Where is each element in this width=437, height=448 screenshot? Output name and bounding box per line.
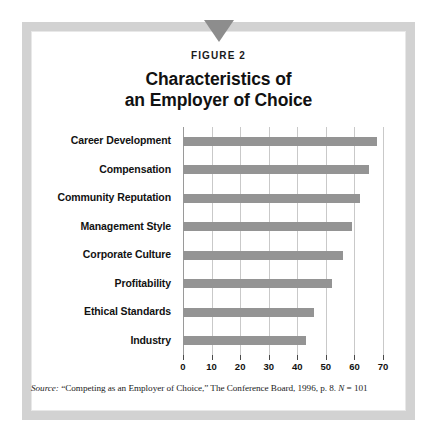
tick-mark-70 bbox=[383, 355, 384, 360]
sample-size-value: = 101 bbox=[344, 383, 367, 393]
bar bbox=[183, 194, 360, 203]
figure-title-line-2: an Employer of Choice bbox=[31, 90, 406, 111]
category-label: Ethical Standards bbox=[84, 305, 171, 317]
tick-mark-60 bbox=[354, 355, 355, 360]
source-body: “Competing as an Employer of Choice,” Th… bbox=[59, 383, 338, 393]
gridline-50 bbox=[326, 127, 327, 355]
figure-title-line-1: Characteristics of bbox=[31, 69, 406, 90]
source-note: Source: “Competing as an Employer of Cho… bbox=[31, 383, 406, 393]
plot-wrapper: Career DevelopmentCompensationCommunity … bbox=[31, 127, 406, 375]
plot-area: 010203040506070 bbox=[183, 127, 383, 355]
x-tick-label: 50 bbox=[321, 361, 332, 372]
x-tick-label: 60 bbox=[349, 361, 360, 372]
down-triangle-icon bbox=[204, 20, 234, 42]
category-label: Management Style bbox=[80, 220, 171, 232]
gridline-20 bbox=[240, 127, 241, 355]
gridline-10 bbox=[212, 127, 213, 355]
x-tick-label: 40 bbox=[292, 361, 303, 372]
x-tick-label: 0 bbox=[180, 361, 185, 372]
category-label: Compensation bbox=[99, 163, 171, 175]
source-prefix: Source: bbox=[31, 383, 59, 393]
gridline-30 bbox=[269, 127, 270, 355]
category-label: Industry bbox=[130, 334, 171, 346]
category-label: Community Reputation bbox=[58, 191, 172, 203]
bar bbox=[183, 279, 332, 288]
bar bbox=[183, 308, 314, 317]
x-tick-label: 30 bbox=[263, 361, 274, 372]
category-label: Career Development bbox=[71, 134, 171, 146]
tick-mark-20 bbox=[240, 355, 241, 360]
figure-number-label: FIGURE 2 bbox=[31, 50, 406, 61]
category-label: Profitability bbox=[115, 277, 171, 289]
bar bbox=[183, 165, 369, 174]
tick-mark-10 bbox=[212, 355, 213, 360]
tick-mark-30 bbox=[269, 355, 270, 360]
x-tick-label: 20 bbox=[235, 361, 246, 372]
x-tick-label: 70 bbox=[378, 361, 389, 372]
gridline-0 bbox=[183, 127, 184, 355]
tick-mark-0 bbox=[183, 355, 184, 360]
gridline-40 bbox=[297, 127, 298, 355]
tick-mark-40 bbox=[297, 355, 298, 360]
category-label: Corporate Culture bbox=[83, 248, 171, 260]
gridline-60 bbox=[354, 127, 355, 355]
bar-chart: Career DevelopmentCompensationCommunity … bbox=[31, 127, 406, 375]
gridline-70 bbox=[383, 127, 384, 355]
bar bbox=[183, 222, 352, 231]
bar bbox=[183, 137, 377, 146]
figure-title: Characteristics of an Employer of Choice bbox=[31, 69, 406, 112]
bar bbox=[183, 251, 343, 260]
x-tick-label: 10 bbox=[206, 361, 217, 372]
figure-content: FIGURE 2 Characteristics of an Employer … bbox=[31, 31, 406, 411]
tick-mark-50 bbox=[326, 355, 327, 360]
bar bbox=[183, 336, 306, 345]
